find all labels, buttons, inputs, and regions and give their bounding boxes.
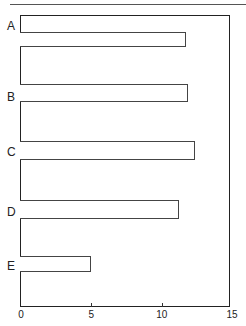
x-tick-label: 5 [89, 310, 95, 320]
category-label-e: E [7, 260, 15, 272]
bar-d [20, 200, 179, 219]
top-rule [10, 4, 246, 5]
bar-c [20, 141, 195, 160]
x-tick [162, 303, 163, 307]
x-tick-label: 15 [226, 310, 237, 320]
bar-e [20, 256, 91, 272]
bar-a [20, 32, 186, 47]
category-label-a: A [7, 20, 15, 32]
category-label-d: D [7, 206, 16, 218]
x-tick-label: 10 [156, 310, 167, 320]
x-tick [91, 303, 92, 307]
category-label-c: C [7, 146, 16, 158]
category-label-b: B [7, 91, 15, 103]
bar-b [20, 84, 188, 102]
x-tick-label: 0 [18, 310, 24, 320]
